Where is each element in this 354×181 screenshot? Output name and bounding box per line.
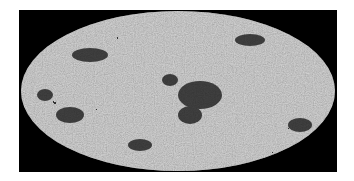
map-ellipse — [21, 11, 335, 171]
sky-map — [0, 0, 354, 181]
